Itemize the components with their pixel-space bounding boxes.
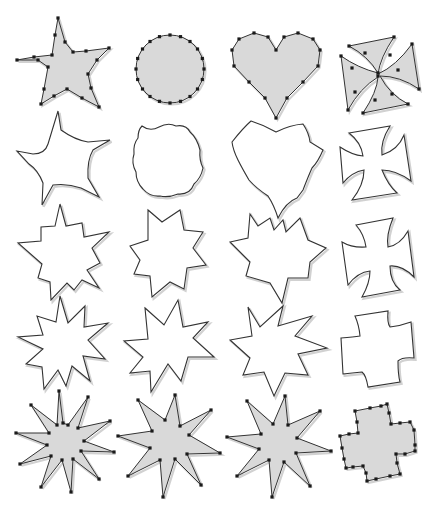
vertex-marker [188,95,191,98]
vertex-marker [141,87,144,90]
vertex-marker [36,58,39,61]
shape-body [136,35,204,103]
vertex-marker [412,428,415,431]
vertex-marker [55,423,58,426]
vertex-marker [66,423,69,426]
vertex-marker [163,418,166,421]
vertex-marker [148,446,151,449]
vertex-marker [199,483,202,486]
vertex-marker [60,458,63,461]
vertex-marker [364,471,367,474]
vertex-marker [395,461,398,464]
vertex-marker [363,51,366,54]
vertex-marker [173,457,176,460]
vertex-marker [308,484,311,487]
vertex-marker [296,31,299,34]
vertex-marker [267,458,270,461]
vertex-marker [365,479,368,482]
vertex-marker [134,67,137,70]
vertex-marker [201,57,204,60]
vertex-marker [356,431,359,434]
vertex-marker [86,72,89,75]
vertex-marker [52,94,55,97]
vertex-marker [266,35,269,38]
vertex-marker [53,33,56,36]
shape-morph-diagram [0,0,432,509]
vertex-marker [398,472,401,475]
vertex-marker [84,49,87,52]
vertex-marker [413,449,416,452]
vertex-marker [158,100,161,103]
vertex-marker [230,48,233,51]
vertex-marker [361,464,364,467]
vertex-marker [270,495,273,498]
vertex-marker [14,431,17,434]
vertex-marker [179,100,182,103]
vertex-marker [408,420,411,423]
vertex-marker [56,16,59,19]
vertex-marker [29,403,32,406]
vertex-marker [50,53,53,56]
vertex-marker [338,434,341,437]
vertex-marker [347,432,350,435]
vertex-marker [47,431,50,434]
vertex-marker [388,53,391,56]
vertex-marker [65,87,68,90]
vertex-marker [39,102,42,105]
vertex-marker [168,101,171,104]
vertex-marker [218,451,221,454]
vertex-marker [97,105,100,108]
vertex-marker [97,477,100,480]
vertex-marker [263,96,266,99]
vertex-marker [347,44,350,47]
vertex-marker [141,47,144,50]
vertex-marker [112,450,115,453]
vertex-marker [71,50,74,53]
vertex-marker [283,394,286,397]
vertex-marker [282,460,285,463]
vertex-marker [46,65,49,68]
vertex-marker [311,37,314,40]
vertex-marker [150,429,153,432]
vertex-marker [340,446,343,449]
vertex-marker [316,64,319,67]
vertex-marker [18,462,21,465]
vertex-marker [237,37,240,40]
vertex-marker [148,40,151,43]
vertex-marker [355,420,358,423]
vertex-marker [368,406,371,409]
vertex-marker [387,411,390,414]
vertex-marker [42,87,45,90]
vertex-marker [15,58,18,61]
vertex-marker [158,458,161,461]
vertex-marker [61,421,64,424]
vertex-marker [196,47,199,50]
vertex-marker [353,90,356,93]
vertex-marker [107,46,110,49]
vertex-marker [196,87,199,90]
vertex-marker [285,96,288,99]
vertex-marker [417,87,420,90]
vertex-marker [136,78,139,81]
vertex-marker [71,457,74,460]
vertex-marker [63,40,66,43]
vertex-marker [89,86,92,89]
vertex-marker [82,439,85,442]
vertex-marker [344,466,347,469]
vertex-marker [232,64,235,67]
vertex-marker [257,447,260,450]
vertex-marker [403,452,406,455]
vertex-marker [49,454,52,457]
vertex-marker [202,67,205,70]
vertex-marker [188,40,191,43]
vertex-marker [406,102,409,105]
vertex-marker [116,434,119,437]
vertex-marker [259,432,262,435]
vertex-marker [45,443,48,446]
vertex-marker [57,389,60,392]
vertex-marker [178,424,181,427]
vertex-marker [80,96,83,99]
vertex-marker [126,474,129,477]
vertex-marker [136,398,139,401]
vertex-marker [398,421,401,424]
